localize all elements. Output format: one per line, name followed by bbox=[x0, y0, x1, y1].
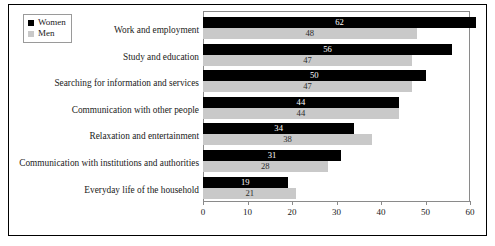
bar-group: 6248 bbox=[203, 17, 470, 39]
x-axis-tick-label: 40 bbox=[377, 207, 386, 217]
bar-value-label: 34 bbox=[203, 123, 354, 134]
bar-value-label: 48 bbox=[203, 28, 417, 39]
bar-group: 5647 bbox=[203, 44, 470, 66]
bar-value-label: 44 bbox=[203, 108, 399, 119]
bar-group: 3438 bbox=[203, 123, 470, 145]
bar-men: 28 bbox=[203, 161, 470, 172]
bar-value-label: 31 bbox=[203, 150, 341, 161]
bar-group: 4444 bbox=[203, 97, 470, 119]
x-axis-tick-label: 50 bbox=[421, 207, 430, 217]
category-label: Communication with institutions and auth… bbox=[9, 158, 199, 168]
bar-value-label: 47 bbox=[203, 55, 412, 66]
x-axis-tick bbox=[381, 201, 382, 205]
bar-men: 48 bbox=[203, 28, 470, 39]
x-axis-tick bbox=[426, 201, 427, 205]
bar-women: 50 bbox=[203, 70, 470, 81]
x-axis: 0102030405060 bbox=[203, 201, 470, 235]
bar-women: 44 bbox=[203, 97, 470, 108]
chart-figure: WomenMen Work and employmentStudy and ed… bbox=[0, 0, 495, 246]
x-axis-tick bbox=[203, 201, 204, 205]
category-label: Work and employment bbox=[9, 25, 199, 35]
category-label: Searching for information and services bbox=[9, 78, 199, 88]
category-label: Relaxation and entertainment bbox=[9, 131, 199, 141]
bar-value-label: 19 bbox=[203, 177, 288, 188]
bars-plot-area: 6248564750474444343831281921 bbox=[203, 11, 470, 201]
bar-men: 44 bbox=[203, 108, 470, 119]
figure-outer-frame: WomenMen Work and employmentStudy and ed… bbox=[8, 4, 487, 236]
bar-value-label: 21 bbox=[203, 188, 296, 199]
bar-men: 47 bbox=[203, 55, 470, 66]
bar-men: 38 bbox=[203, 134, 470, 145]
category-axis-labels: Work and employmentStudy and educationSe… bbox=[9, 11, 199, 201]
bar-women: 34 bbox=[203, 123, 470, 134]
x-axis-tick-label: 60 bbox=[466, 207, 475, 217]
bar-women: 62 bbox=[203, 17, 470, 28]
bar-women: 19 bbox=[203, 177, 470, 188]
category-label: Communication with other people bbox=[9, 105, 199, 115]
bar-value-label: 44 bbox=[203, 97, 399, 108]
x-axis-tick bbox=[292, 201, 293, 205]
bar-men: 21 bbox=[203, 188, 470, 199]
category-label: Study and education bbox=[9, 52, 199, 62]
chart-plot-container: WomenMen Work and employmentStudy and ed… bbox=[9, 5, 488, 237]
bar-men: 47 bbox=[203, 81, 470, 92]
bar-value-label: 62 bbox=[203, 17, 476, 28]
bar-women: 31 bbox=[203, 150, 470, 161]
x-axis-tick-label: 30 bbox=[332, 207, 341, 217]
x-axis-tick bbox=[337, 201, 338, 205]
bar-value-label: 47 bbox=[203, 81, 412, 92]
x-axis-tick bbox=[470, 201, 471, 205]
bar-value-label: 38 bbox=[203, 134, 372, 145]
x-axis-tick-label: 0 bbox=[201, 207, 206, 217]
bar-value-label: 50 bbox=[203, 70, 426, 81]
bar-group: 5047 bbox=[203, 70, 470, 92]
x-axis-tick-label: 10 bbox=[243, 207, 252, 217]
x-axis-tick bbox=[248, 201, 249, 205]
bar-women: 56 bbox=[203, 44, 470, 55]
bar-group: 1921 bbox=[203, 177, 470, 199]
category-label: Everyday life of the household bbox=[9, 185, 199, 195]
bar-group: 3128 bbox=[203, 150, 470, 172]
x-axis-tick-label: 20 bbox=[288, 207, 297, 217]
bar-value-label: 56 bbox=[203, 44, 452, 55]
bar-value-label: 28 bbox=[203, 161, 328, 172]
